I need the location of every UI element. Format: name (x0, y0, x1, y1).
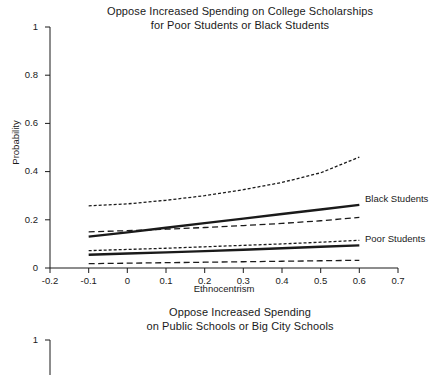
figure: Oppose Increased Spending on College Sch… (0, 0, 431, 375)
x-ticks (50, 268, 398, 273)
data-curves (89, 157, 360, 264)
series-line (89, 157, 360, 206)
y-tick-label: 1 (16, 21, 38, 32)
x-tick-label: 0 (109, 275, 145, 286)
x-axis-label: Ethnocentrism (164, 283, 284, 294)
x-tick-label: 0.7 (380, 275, 416, 286)
y-ticks (45, 27, 50, 268)
x-tick-label: 0.5 (303, 275, 339, 286)
series-label-poor-students: Poor Students (365, 233, 425, 244)
y-tick-label: 1 (16, 334, 38, 345)
series-line (89, 217, 360, 231)
y-axis-label: Probability (10, 111, 21, 175)
plot-area (0, 0, 431, 300)
x-tick-label: -0.2 (32, 275, 68, 286)
y-tick-label: 0.2 (10, 214, 38, 225)
panel-public-schools: Oppose Increased Spendingon Public Schoo… (0, 300, 431, 375)
y-tick-label: 0 (16, 262, 38, 273)
x-tick-label: -0.1 (71, 275, 107, 286)
panel-college-scholarships: Oppose Increased Spending on College Sch… (0, 0, 431, 300)
y-tick-label: 0.8 (10, 69, 38, 80)
plot-area (0, 300, 431, 375)
series-line (89, 245, 360, 254)
x-tick-label: 0.6 (341, 275, 377, 286)
series-line (89, 260, 360, 263)
series-line (89, 240, 360, 250)
series-label-black-students: Black Students (365, 193, 428, 204)
